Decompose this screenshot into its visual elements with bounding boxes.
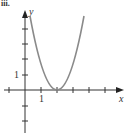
x-axis-label: x: [118, 93, 124, 104]
panel-label: iii.: [1, 0, 10, 8]
y-axis-arrow-icon: [22, 10, 28, 18]
y-axis-label: y: [28, 6, 34, 17]
parabola-curve: [30, 16, 84, 90]
y-tick-label-1: 1: [14, 69, 19, 80]
parabola-graph: iii. 1 1 x y: [0, 0, 128, 133]
x-tick-label-1: 1: [39, 93, 44, 104]
